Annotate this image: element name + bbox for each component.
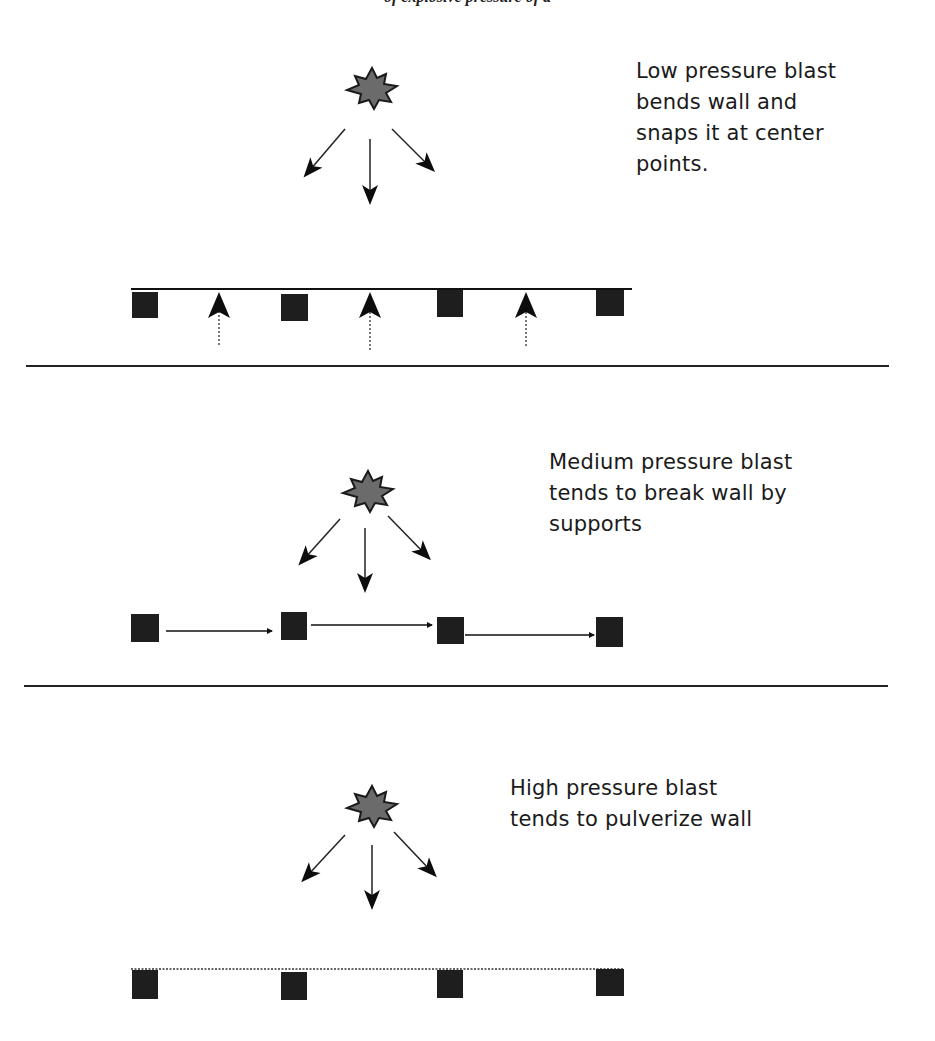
- medium-pressure-label: Medium pressure blast tends to break wal…: [549, 447, 792, 540]
- blast-icon: [347, 68, 397, 109]
- wall-supports: [131, 612, 623, 647]
- panel-low-pressure: [131, 68, 632, 350]
- blast-icon: [343, 471, 393, 512]
- broken-wall-segments: [166, 625, 594, 635]
- blast-direction-arrows: [310, 129, 428, 195]
- blast-icon: [347, 786, 397, 827]
- blast-direction-arrows: [305, 516, 424, 583]
- high-pressure-label: High pressure blast tends to pulverize w…: [510, 773, 752, 835]
- low-pressure-label: Low pressure blast bends wall and snaps …: [636, 56, 836, 180]
- wall-supports: [132, 969, 624, 1000]
- center-snap-arrows: [208, 292, 537, 350]
- blast-direction-arrows: [308, 832, 430, 900]
